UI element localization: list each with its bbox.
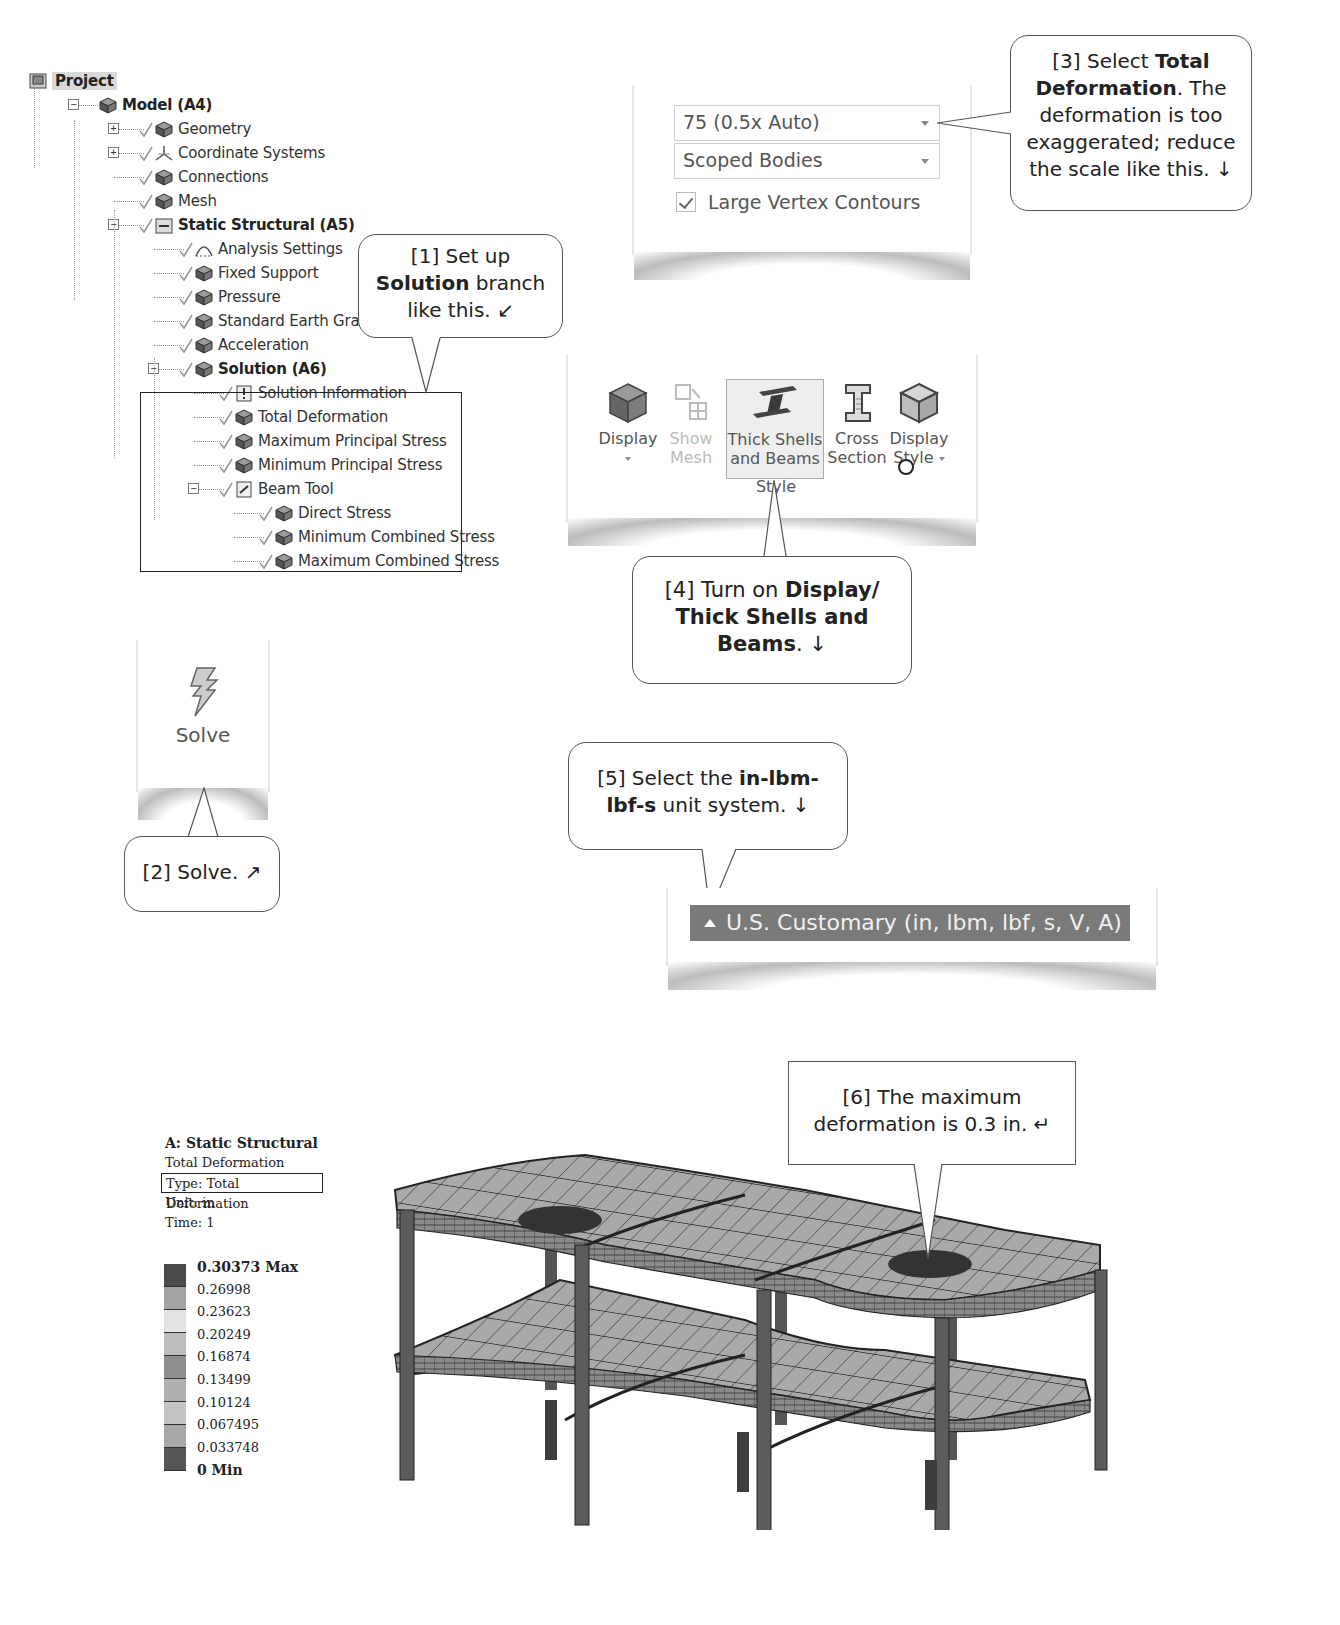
legend-value: 0.16874 [197, 1346, 298, 1369]
tree-item-static-structural-a5[interactable]: Static Structural (A5) [138, 214, 355, 236]
tree-item-acceleration[interactable]: Acceleration [178, 334, 309, 356]
callout-6-tail [912, 1163, 948, 1261]
tree-item-project[interactable]: Project [28, 70, 117, 92]
tree-item-connections[interactable]: Connections [138, 166, 269, 188]
static-structural-icon [154, 216, 174, 234]
gravity-icon [194, 312, 214, 330]
callout-3-tail [935, 110, 1015, 140]
show-mesh-label: Show [666, 429, 716, 448]
color-scale-labels: 0.30373 Max 0.26998 0.23623 0.20249 0.16… [197, 1256, 298, 1482]
scope-dropdown[interactable]: Scoped Bodies [674, 143, 940, 179]
coordinate-systems-icon [154, 144, 174, 162]
solution-icon [194, 360, 214, 378]
unit-system-label: U.S. Customary (in, lbm, lbf, s, V, A) [726, 910, 1122, 935]
tree-item-standard-earth-gravity[interactable]: Standard Earth Gravity [178, 310, 386, 332]
color-scale-segment [164, 1356, 186, 1379]
geometry-icon [154, 120, 174, 138]
callout-5-text: [5] Select the [597, 766, 739, 790]
thick-shells-and-beams-button[interactable]: Thick Shells and Beams [726, 379, 824, 479]
mouse-cursor-icon [898, 459, 914, 475]
callout-1-tail [400, 336, 460, 394]
tree-item-analysis-settings[interactable]: Analysis Settings [178, 238, 343, 260]
arrow-icon: ↵ [1034, 1112, 1051, 1136]
tree-item-label: Analysis Settings [218, 240, 343, 258]
tree-item-fixed-support[interactable]: Fixed Support [178, 262, 318, 284]
callout-6-text: [6] The maximum deformation is 0.3 in. [814, 1085, 1034, 1136]
chevron-down-icon [625, 457, 631, 461]
deformation-scale-dropdown[interactable]: 75 (0.5x Auto) [674, 105, 940, 141]
thick-shells-label: Thick Shells [727, 430, 823, 449]
collapse-icon[interactable]: − [68, 99, 79, 110]
deformation-scale-value: 75 (0.5x Auto) [683, 111, 820, 133]
tree-item-label: Mesh [178, 192, 217, 210]
checkbox-checked-icon[interactable] [676, 192, 696, 212]
arrow-icon: ↙ [497, 298, 514, 322]
tree-item-label: Static Structural (A5) [178, 216, 355, 234]
tree-guide-line [74, 120, 75, 300]
color-scale-bar [164, 1264, 186, 1471]
result-legend: A: Static Structural Total Deformation T… [165, 1133, 323, 1233]
callout-2: [2] Solve. ↗ [124, 836, 280, 912]
deformation-scale-panel: 75 (0.5x Auto) Scoped Bodies Large Verte… [632, 85, 972, 255]
arrow-icon: ↗ [245, 860, 262, 884]
arrow-icon: ↓ [793, 793, 810, 817]
callout-4-text: [4] Turn on [665, 578, 785, 602]
tree-item-geometry[interactable]: Geometry [138, 118, 251, 140]
show-mesh-button[interactable]: Show Mesh [666, 381, 716, 467]
cross-section-button[interactable]: Cross Section [826, 381, 888, 467]
expand-icon[interactable]: + [108, 123, 119, 134]
cross-section-label: Cross [826, 429, 888, 448]
legend-value: 0.13499 [197, 1369, 298, 1392]
legend-type: Type: Total Deformation [161, 1173, 323, 1193]
tree-item-pressure[interactable]: Pressure [178, 286, 280, 308]
lightning-bolt-icon [183, 666, 223, 718]
arrow-icon: ↓ [1216, 157, 1233, 181]
large-vertex-contours-checkbox[interactable]: Large Vertex Contours [676, 191, 920, 213]
color-scale-segment [164, 1402, 186, 1425]
model-icon [98, 96, 118, 114]
panel-shadow [668, 962, 1156, 990]
solve-panel: Solve [136, 640, 270, 792]
callout-2-text: [2] Solve. [143, 860, 245, 884]
tree-item-label: Coordinate Systems [178, 144, 325, 162]
tree-item-coordinate-systems[interactable]: Coordinate Systems [138, 142, 325, 164]
tree-guide-line [114, 210, 115, 458]
solve-label: Solve [138, 726, 268, 745]
cross-section-label-2: Section [826, 448, 888, 467]
callout-4-tail [758, 478, 790, 558]
scope-value: Scoped Bodies [683, 149, 823, 171]
tree-item-label: Pressure [218, 288, 280, 306]
callout-3: [3] Select Total Deformation. The deform… [1010, 35, 1252, 211]
color-scale-segment [164, 1448, 186, 1471]
tree-item-label: Acceleration [218, 336, 309, 354]
cube-outline-icon [898, 381, 940, 425]
display-label: Display [596, 429, 660, 448]
legend-max-label: 0.30373 Max [197, 1256, 298, 1279]
legend-title: A: Static Structural [165, 1133, 323, 1153]
callout-1-text: [1] Set up [411, 244, 510, 268]
show-mesh-icon [670, 381, 712, 425]
display-button[interactable]: Display [596, 381, 660, 467]
expand-icon[interactable]: + [108, 147, 119, 158]
tree-item-solution-a6[interactable]: Solution (A6) [178, 358, 327, 380]
tree-item-label: Fixed Support [218, 264, 318, 282]
legend-value: 0.067495 [197, 1414, 298, 1437]
tree-item-mesh[interactable]: Mesh [138, 190, 217, 212]
tree-item-label: Solution (A6) [218, 360, 327, 378]
cross-section-icon [836, 381, 878, 425]
solve-button[interactable]: Solve [138, 666, 268, 745]
unit-system-us-customary[interactable]: U.S. Customary (in, lbm, lbf, s, V, A) [690, 905, 1130, 941]
display-style-button[interactable]: Display Style [888, 381, 950, 467]
chevron-down-icon [921, 121, 929, 126]
callout-5: [5] Select the in-lbm-lbf-s unit system.… [568, 742, 848, 850]
tree-item-model-a4[interactable]: Model (A4) [98, 94, 212, 116]
show-mesh-label-2: Mesh [666, 448, 716, 467]
chevron-down-icon [921, 159, 929, 164]
tree-item-label: Connections [178, 168, 269, 186]
checkbox-label: Large Vertex Contours [708, 191, 920, 213]
tree-item-label: Project [52, 72, 117, 90]
tree-item-label: Geometry [178, 120, 251, 138]
deformed-frame-model-viewport[interactable] [385, 1150, 1115, 1530]
callout-2-tail [184, 786, 224, 838]
legend-value: 0.033748 [197, 1437, 298, 1460]
